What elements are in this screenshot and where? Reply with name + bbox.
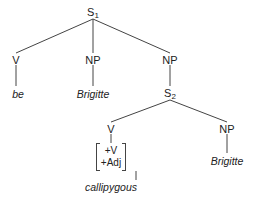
- node-v: V: [12, 54, 19, 66]
- node-s1: S1: [87, 6, 99, 22]
- leaf-be: be: [12, 88, 24, 100]
- leaf-callipygous: callipygous: [85, 181, 137, 193]
- node-v-embedded: V: [107, 123, 114, 135]
- feature-matrix: +V +Adj: [96, 143, 126, 171]
- tree-edges: [0, 0, 259, 201]
- leaf-brigitte-2: Brigitte: [211, 155, 244, 167]
- node-np-embedded: NP: [219, 123, 234, 135]
- node-np-subject: NP: [85, 54, 100, 66]
- node-np-complement: NP: [162, 54, 177, 66]
- feature-plus-v: +V: [96, 145, 126, 156]
- leaf-brigitte-1: Brigitte: [77, 88, 110, 100]
- feature-plus-adj: +Adj: [96, 157, 126, 168]
- node-s2: S2: [164, 87, 176, 103]
